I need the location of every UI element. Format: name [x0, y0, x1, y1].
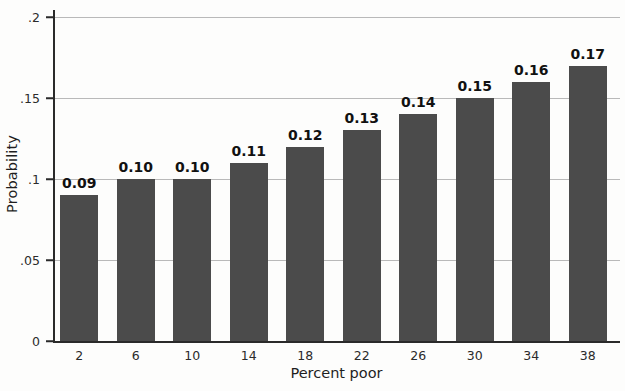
- y-axis-tick-label: 0: [0, 334, 46, 349]
- x-axis-tick-labels: 261014182226303438: [55, 0, 620, 391]
- y-axis-tick-mark: [46, 340, 53, 342]
- x-axis-tick-label: 30: [467, 348, 483, 363]
- x-axis-tick-label: 22: [354, 348, 370, 363]
- y-axis-tick-label: .2: [0, 10, 46, 25]
- y-axis-tick-mark: [46, 16, 53, 18]
- x-axis-tick-label: 18: [297, 348, 313, 363]
- y-axis-tick-label: .15: [0, 91, 46, 106]
- bar-chart-figure: Probability 0.05.1.15.2 0.090.100.100.11…: [0, 0, 625, 391]
- y-axis-tick-mark: [46, 259, 53, 261]
- y-axis-tick-mark: [46, 178, 53, 180]
- x-axis-tick-label: 10: [184, 348, 200, 363]
- x-axis-tick-label: 2: [75, 348, 83, 363]
- x-axis-tick-label: 34: [523, 348, 539, 363]
- x-axis-tick-label: 6: [132, 348, 140, 363]
- x-axis-title: Percent poor: [53, 365, 620, 381]
- y-axis-tick-mark: [46, 97, 53, 99]
- y-axis-tick-label: .1: [0, 172, 46, 187]
- x-axis-tick-label: 26: [410, 348, 426, 363]
- x-axis-tick-label: 38: [580, 348, 596, 363]
- y-axis-tick-label: .05: [0, 253, 46, 268]
- x-axis-tick-label: 14: [241, 348, 257, 363]
- y-axis-tick-labels: 0.05.1.15.2: [0, 0, 46, 391]
